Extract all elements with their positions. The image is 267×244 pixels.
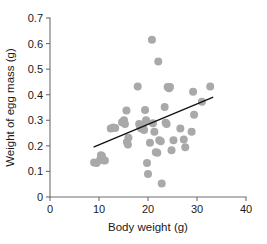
x-tick-label: 20 — [142, 203, 154, 215]
data-point — [157, 137, 165, 145]
data-point — [181, 143, 189, 151]
data-point — [144, 170, 152, 178]
data-point — [101, 156, 109, 164]
y-tick-label: 0.2 — [28, 140, 43, 152]
data-point — [153, 149, 161, 157]
data-point — [169, 136, 177, 144]
data-point — [150, 128, 158, 136]
scatter-plot-figure: 010203040 00.10.20.30.40.50.60.7 Body we… — [0, 0, 267, 244]
data-point — [143, 159, 151, 167]
data-point — [158, 179, 166, 187]
y-tick-label: 0 — [37, 191, 43, 203]
data-point — [124, 134, 132, 142]
y-tick-label: 0.5 — [28, 63, 43, 75]
y-tick-label: 0.7 — [28, 12, 43, 24]
y-tick-label: 0.3 — [28, 114, 43, 126]
plot-canvas: 010203040 00.10.20.30.40.50.60.7 Body we… — [0, 0, 267, 244]
x-tick-label: 0 — [47, 203, 53, 215]
data-point — [166, 83, 174, 91]
data-point — [142, 116, 150, 124]
data-point — [148, 36, 156, 44]
data-point — [111, 124, 119, 132]
data-point — [180, 135, 188, 143]
x-axis-ticks: 010203040 — [47, 197, 252, 215]
data-point — [154, 57, 162, 65]
y-axis-ticks: 00.10.20.30.40.50.60.7 — [28, 12, 50, 203]
x-tick-label: 40 — [240, 203, 252, 215]
regression-line — [94, 97, 213, 147]
data-point — [161, 103, 169, 111]
y-tick-label: 0.4 — [28, 89, 43, 101]
x-tick-label: 30 — [191, 203, 203, 215]
data-point — [124, 141, 132, 149]
y-axis-title: Weight of egg mass (g) — [4, 48, 16, 167]
data-point — [188, 128, 196, 136]
data-point — [121, 120, 129, 128]
data-point — [141, 106, 149, 114]
y-tick-label: 0.6 — [28, 38, 43, 50]
data-point — [134, 83, 142, 91]
data-point — [206, 83, 214, 91]
data-point — [168, 146, 176, 154]
y-tick-label: 0.1 — [28, 165, 43, 177]
data-point — [189, 88, 197, 96]
data-point — [163, 120, 171, 128]
data-point — [122, 107, 130, 115]
data-point — [146, 139, 154, 147]
x-tick-label: 10 — [93, 203, 105, 215]
data-points — [90, 36, 214, 188]
x-axis-title: Body weight (g) — [108, 221, 188, 233]
data-point — [190, 111, 198, 119]
data-point — [176, 124, 184, 132]
